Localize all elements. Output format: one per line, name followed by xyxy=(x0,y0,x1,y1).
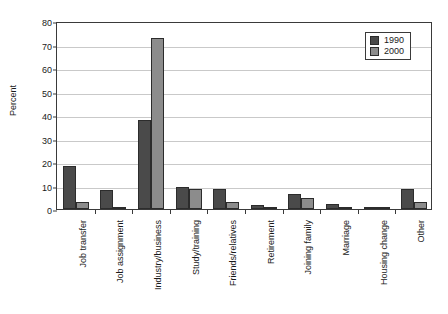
x-axis-label: Industry/business xyxy=(154,220,163,290)
bar-group xyxy=(170,23,208,209)
y-tick-label: 20 xyxy=(42,160,52,169)
bar-1990 xyxy=(288,194,301,209)
x-axis-label: Other xyxy=(417,220,426,243)
x-tick-mark xyxy=(95,209,96,214)
x-axis-label: Study/training xyxy=(192,220,201,275)
bar-1990 xyxy=(176,187,189,209)
legend-item-2000: 2000 xyxy=(370,47,404,56)
x-tick-mark xyxy=(132,209,133,214)
bar-group xyxy=(207,23,245,209)
bar-1990 xyxy=(63,166,76,209)
bar-1990 xyxy=(100,190,113,209)
y-tick-label: 30 xyxy=(42,136,52,145)
x-axis-label: Retirement xyxy=(267,220,276,264)
bar-1990 xyxy=(326,204,339,209)
y-tick-label: 10 xyxy=(42,183,52,192)
bar-1990 xyxy=(138,120,151,209)
bar-1990 xyxy=(213,189,226,209)
x-axis-label: Job transfer xyxy=(79,220,88,268)
y-tick-label: 50 xyxy=(42,89,52,98)
bar-2000 xyxy=(113,207,126,209)
legend-item-1990: 1990 xyxy=(370,36,404,45)
bar-2000 xyxy=(76,202,89,209)
y-tick-label: 80 xyxy=(42,19,52,28)
bar-group xyxy=(245,23,283,209)
bar-group xyxy=(57,23,95,209)
x-tick-mark xyxy=(320,209,321,214)
bar-2000 xyxy=(301,198,314,209)
bar-2000 xyxy=(151,38,164,209)
bar-group xyxy=(283,23,321,209)
y-tick-mark xyxy=(53,211,57,212)
x-tick-mark xyxy=(207,209,208,214)
legend-label-2000: 2000 xyxy=(384,47,404,56)
x-axis-label: Marriage xyxy=(342,220,351,256)
y-axis-title: Percent xyxy=(8,85,18,116)
x-axis-label: Housing change xyxy=(380,220,389,285)
y-tick-label: 0 xyxy=(47,207,52,216)
chart-legend: 1990 2000 xyxy=(365,32,411,60)
legend-swatch-2000 xyxy=(370,47,379,56)
y-tick-label: 60 xyxy=(42,66,52,75)
x-axis-label: Joining family xyxy=(304,220,313,275)
bar-2000 xyxy=(414,202,427,209)
x-axis-label: Job assignment xyxy=(116,220,125,283)
bar-2000 xyxy=(189,189,202,209)
bar-group xyxy=(95,23,133,209)
x-tick-mark xyxy=(358,209,359,214)
x-tick-mark xyxy=(170,209,171,214)
y-tick-label: 70 xyxy=(42,42,52,51)
bar-2000 xyxy=(339,207,352,209)
x-tick-mark xyxy=(245,209,246,214)
bar-group xyxy=(320,23,358,209)
bar-1990 xyxy=(364,207,377,209)
x-tick-mark xyxy=(395,209,396,214)
legend-swatch-1990 xyxy=(370,36,379,45)
legend-label-1990: 1990 xyxy=(384,36,404,45)
bar-2000 xyxy=(264,207,277,209)
bar-1990 xyxy=(251,205,264,209)
bar-2000 xyxy=(226,202,239,209)
y-tick-label: 40 xyxy=(42,113,52,122)
bar-chart: Percent 01020304050607080 Job transferJo… xyxy=(0,0,448,314)
bar-2000 xyxy=(377,207,390,209)
bar-1990 xyxy=(401,189,414,209)
bar-group xyxy=(132,23,170,209)
x-tick-mark xyxy=(283,209,284,214)
x-axis-label: Friends/relatives xyxy=(229,220,238,286)
